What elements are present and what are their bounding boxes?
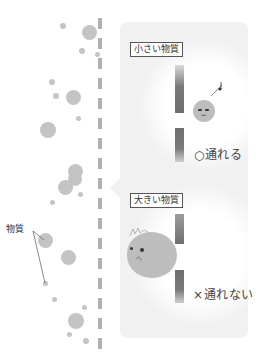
small-particle-character (193, 100, 215, 122)
membrane-wall-bottom-upper (175, 214, 184, 244)
blocked-text: ×通れない (193, 285, 254, 302)
passes-text: ○通れる (194, 145, 242, 162)
panel-pointer (110, 178, 120, 198)
small-substance-title: 小さい物質 (130, 42, 183, 57)
large-particle-character: へ (127, 232, 177, 278)
label-pointer-lines (0, 0, 120, 358)
music-note-icon (208, 80, 228, 100)
membrane-wall-top-lower (175, 128, 184, 162)
large-substance-title: 大きい物質 (130, 193, 183, 208)
membrane-wall-top-upper (175, 65, 184, 113)
struggle-lines-icon (128, 226, 150, 238)
membrane-wall-bottom-lower (175, 270, 184, 303)
